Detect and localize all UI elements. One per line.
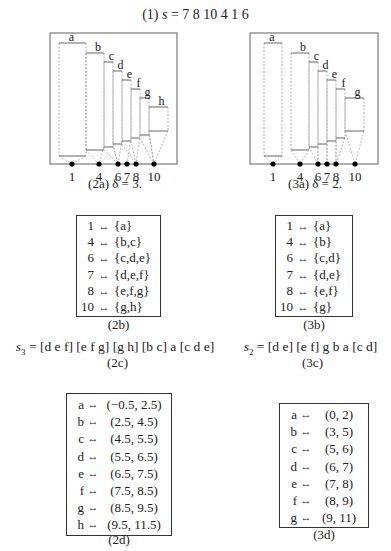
position-dot-4 — [96, 161, 101, 166]
caption-3b: (3b) — [275, 317, 353, 333]
interval-table-2d: a↔(−0.5, 2.5)b↔(2.5, 4.5)c↔(4.5, 5.5)d↔(… — [66, 393, 172, 536]
row-key: 7 — [279, 267, 293, 283]
row-value: {g,h} — [114, 299, 143, 315]
table-row: f↔(8, 9) — [283, 492, 365, 509]
row-value: (7, 8) — [315, 475, 363, 492]
funnel-line-f — [336, 138, 345, 164]
row-key: b — [70, 413, 84, 430]
row-value: (6, 7) — [315, 458, 363, 475]
position-dot-7 — [324, 161, 329, 166]
row-value: (5.5, 6.5) — [102, 448, 166, 465]
bidirectional-arrow-icon: ↔ — [293, 218, 313, 234]
row-key: 4 — [80, 234, 94, 250]
row-value: (5, 6) — [315, 440, 363, 457]
caption-2c: (2c) — [75, 355, 160, 371]
position-dot-1 — [69, 161, 74, 166]
row-key: d — [283, 458, 297, 475]
table-row: c↔(4.5, 5.5) — [70, 430, 168, 447]
bidirectional-arrow-icon: ↔ — [94, 283, 114, 299]
funnel-line-f — [127, 138, 131, 164]
position-dot-4 — [297, 161, 302, 166]
position-dot-7 — [124, 161, 129, 166]
row-value: (9, 11) — [315, 509, 363, 526]
map-table-3b: 1↔{a}4↔{b}6↔{c,d}7↔{d,e}8↔{e,f}10↔{g} — [275, 215, 353, 317]
table-row: 7↔{d,e,f} — [80, 267, 157, 283]
interval-table-3d: a↔(0, 2)b↔(3, 5)c↔(5, 6)d↔(6, 7)e↔(7, 8)… — [279, 403, 369, 528]
box-label-g: g — [145, 85, 151, 99]
table-row: e↔(6.5, 7.5) — [70, 465, 168, 482]
table-row: e↔(7, 8) — [283, 475, 365, 492]
bidirectional-arrow-icon: ↔ — [297, 423, 315, 440]
box-label-f: f — [342, 76, 346, 90]
funnel-line-b — [104, 150, 118, 164]
box-label-c: c — [109, 49, 114, 63]
bidirectional-arrow-icon: ↔ — [84, 396, 102, 413]
bidirectional-arrow-icon: ↔ — [94, 267, 114, 283]
table-row: 1↔{a} — [279, 218, 349, 234]
row-key: a — [70, 396, 84, 413]
row-key: f — [70, 482, 84, 499]
bidirectional-arrow-icon: ↔ — [297, 475, 315, 492]
caption-3d: (3d) — [279, 527, 369, 543]
position-dot-1 — [270, 161, 275, 166]
table-row: a↔(0, 2) — [283, 406, 365, 423]
funnel-line-e — [131, 141, 136, 164]
map-rows-3b: 1↔{a}4↔{b}6↔{c,d}7↔{d,e}8↔{e,f}10↔{g} — [279, 218, 349, 315]
row-key: d — [70, 448, 84, 465]
table-row: 1↔{a} — [80, 218, 157, 234]
table-row: d↔(5.5, 6.5) — [70, 448, 168, 465]
row-value: (−0.5, 2.5) — [102, 396, 166, 413]
seq-expr: = [d e f] [e f g] [g h] [b c] a [c d e] — [29, 339, 214, 354]
bidirectional-arrow-icon: ↔ — [94, 299, 114, 315]
position-dot-10 — [151, 161, 156, 166]
row-key: 7 — [80, 267, 94, 283]
box-label-b: b — [300, 40, 306, 54]
row-key: c — [283, 440, 297, 457]
row-value: {g} — [313, 299, 332, 315]
box-label-a: a — [269, 30, 275, 44]
bidirectional-arrow-icon: ↔ — [84, 482, 102, 499]
row-key: e — [283, 475, 297, 492]
seq-expr: = [d e] [e f] g b a [c d] — [257, 339, 377, 354]
seq-sub: 2 — [249, 347, 254, 357]
position-dot-6 — [315, 161, 320, 166]
table-row: 8↔{e,f} — [279, 283, 349, 299]
funnel-line-d — [113, 144, 118, 164]
bidirectional-arrow-icon: ↔ — [293, 250, 313, 266]
row-value: {e,f,g} — [114, 283, 150, 299]
table-row: d↔(6, 7) — [283, 458, 365, 475]
row-value: {c,d} — [313, 250, 341, 266]
table-row: b↔(3, 5) — [283, 423, 365, 440]
row-value: (8.5, 9.5) — [102, 499, 166, 516]
row-key: 8 — [279, 283, 293, 299]
row-key: e — [70, 465, 84, 482]
table-row: 7↔{d,e} — [279, 267, 349, 283]
position-dot-8 — [333, 161, 338, 166]
bidirectional-arrow-icon: ↔ — [94, 218, 114, 234]
row-value: {a} — [313, 218, 331, 234]
funnel-line-c — [309, 147, 318, 164]
row-value: {e,f} — [313, 283, 339, 299]
table-row: g↔(8.5, 9.5) — [70, 499, 168, 516]
bidirectional-arrow-icon: ↔ — [84, 448, 102, 465]
row-value: {d,e,f} — [114, 267, 150, 283]
row-value: (2.5, 4.5) — [102, 413, 166, 430]
funnel-line-b — [86, 150, 99, 164]
box-label-e: e — [332, 67, 337, 81]
row-key: f — [283, 492, 297, 509]
row-key: 6 — [80, 250, 94, 266]
bidirectional-arrow-icon: ↔ — [297, 440, 315, 457]
row-value: {b} — [313, 234, 332, 250]
row-key: 4 — [279, 234, 293, 250]
box-label-c: c — [314, 49, 319, 63]
funnel-line-h — [149, 131, 154, 164]
bidirectional-arrow-icon: ↔ — [297, 509, 315, 526]
box-label-h: h — [159, 94, 165, 108]
bidirectional-arrow-icon: ↔ — [94, 250, 114, 266]
row-key: c — [70, 430, 84, 447]
box-label-e: e — [127, 67, 132, 81]
funnel-line-h — [154, 131, 168, 164]
caption-3c: (3c) — [270, 355, 355, 371]
table-row: a↔(−0.5, 2.5) — [70, 396, 168, 413]
row-value: {c,d,e} — [114, 250, 151, 266]
